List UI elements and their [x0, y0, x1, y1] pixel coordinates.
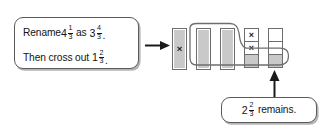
whole-part: 1: [92, 52, 98, 63]
bar-4-third-3-remaining: [244, 54, 259, 68]
instruction-callout: Rename 4 1 3 as 3 4 3 . Then cross out: [14, 17, 139, 69]
denominator: 3: [99, 57, 104, 65]
arrow-right-icon: [145, 41, 170, 50]
bar-5-thirds: [268, 28, 283, 70]
bar-5-third-2-empty: [268, 41, 283, 55]
instruction-line-1: Rename 4 1 3 as 3 4 3 .: [23, 25, 131, 41]
instruction-middle-text: as: [76, 28, 87, 38]
remains-label: remains.: [258, 105, 296, 115]
arrow-up-icon: [269, 70, 280, 98]
fraction-two-thirds: 2 3: [99, 50, 104, 66]
numerator: 1: [68, 25, 73, 32]
times-icon: ×: [173, 29, 186, 69]
denominator: 3: [249, 110, 254, 118]
bar-4-third-1-crossed-out: ×: [244, 28, 259, 42]
bar-3-remaining: [220, 28, 235, 70]
numerator: 2: [249, 102, 254, 109]
whole-part: 3: [90, 28, 96, 39]
bar-4-third-2-crossed-out: ×: [244, 41, 259, 55]
numerator: 2: [99, 50, 104, 57]
times-icon: ×: [245, 29, 258, 41]
bar-5-third-1-empty: [268, 28, 283, 42]
bar-1-crossed-out: ×: [172, 28, 187, 70]
period-2: .: [105, 56, 108, 66]
fraction-one-third: 1 3: [68, 25, 73, 41]
fraction-two-thirds: 2 3: [249, 102, 254, 118]
instruction-line-2: Then cross out 1 2 3 .: [23, 50, 131, 66]
mixed-number-three-four-thirds: 3 4 3: [90, 25, 102, 41]
figure-canvas: Rename 4 1 3 as 3 4 3 . Then cross out: [0, 0, 333, 129]
remains-line: 2 2 3 remains.: [242, 102, 296, 118]
bar-5-third-3-remaining: [268, 54, 283, 68]
denominator: 3: [68, 33, 73, 41]
mixed-number-four-one-third: 4 1 3: [61, 25, 73, 41]
whole-part: 2: [242, 105, 248, 116]
times-icon: ×: [245, 42, 258, 54]
instruction-lead-text: Rename: [23, 28, 61, 38]
remains-callout: 2 2 3 remains.: [221, 97, 317, 123]
bar-4-thirds: × ×: [244, 28, 259, 70]
mixed-number-one-two-thirds: 1 2 3: [92, 50, 104, 66]
cross-out-lead-text: Then cross out: [23, 53, 89, 63]
whole-part: 4: [61, 28, 67, 39]
numerator: 4: [97, 25, 102, 32]
mixed-number-two-two-thirds: 2 2 3: [242, 102, 254, 118]
period-1: .: [103, 31, 106, 41]
bar-2-remaining: [196, 28, 211, 70]
fraction-four-thirds: 4 3: [97, 25, 102, 41]
bar-model: × × ×: [168, 24, 293, 74]
denominator: 3: [97, 33, 102, 41]
